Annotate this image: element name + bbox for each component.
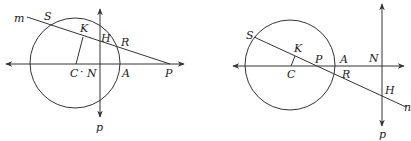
label-p-line: p	[96, 121, 103, 134]
left-figure: m S K H R C · N A P p	[6, 9, 184, 134]
label-n: N	[368, 52, 379, 65]
label-c: C	[70, 67, 79, 80]
label-h: H	[100, 32, 111, 45]
label-p-line: p	[379, 128, 386, 141]
label-n-line: n	[404, 101, 411, 114]
label-n: N	[86, 67, 97, 80]
label-c: C	[287, 68, 296, 81]
label-k: K	[79, 22, 89, 35]
label-dot: ·	[80, 66, 84, 79]
label-p-point: P	[314, 53, 323, 66]
right-line-n	[254, 37, 406, 107]
label-k: K	[293, 42, 303, 55]
label-h: H	[384, 84, 395, 97]
label-a: A	[121, 67, 130, 80]
geometry-diagram: m S K H R C · N A P p S K C P A R N H n …	[0, 0, 411, 141]
label-r: R	[120, 36, 129, 49]
right-segment-ck	[291, 56, 295, 66]
right-figure: S K C P A R N H n p	[233, 4, 411, 141]
label-s: S	[44, 10, 52, 23]
label-a: A	[339, 53, 348, 66]
label-r: R	[341, 68, 350, 81]
label-s: S	[246, 29, 254, 42]
label-m: m	[14, 12, 24, 25]
left-segment-ck	[76, 37, 83, 64]
label-p-point: P	[164, 67, 173, 80]
